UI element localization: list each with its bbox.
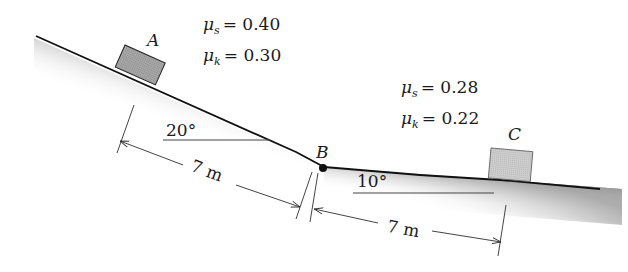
svg-text:μk= 0.22: μk= 0.22	[401, 108, 479, 131]
dimension-ab-label: 7 m	[188, 156, 225, 186]
incline-diagram: A C B μs= 0.40 μk= 0.30 μs= 0.28 μk= 0.2…	[0, 0, 628, 272]
svg-text:μs= 0.28: μs= 0.28	[401, 77, 478, 100]
friction-coefficients-ab: μs= 0.40 μk= 0.30	[203, 14, 281, 68]
block-c-label: C	[508, 124, 521, 144]
block-a-label: A	[145, 30, 159, 50]
mu-k-symbol: μ	[401, 108, 412, 128]
mu-s-symbol: μ	[401, 77, 412, 97]
mu-s-symbol: μ	[203, 14, 214, 34]
point-b-label: B	[315, 142, 329, 162]
dimension-bc-label: 7 m	[386, 216, 421, 241]
mu-k-sub: k	[412, 118, 419, 131]
mu-k-symbol: μ	[203, 45, 214, 65]
angle-20-label: 20°	[166, 120, 196, 140]
diagram-svg: A C B μs= 0.40 μk= 0.30 μs= 0.28 μk= 0.2…	[0, 0, 628, 272]
mu-k-value: = 0.22	[422, 108, 480, 128]
mu-s-sub: s	[214, 24, 220, 37]
svg-text:μs= 0.40: μs= 0.40	[203, 14, 280, 37]
friction-coefficients-bc: μs= 0.28 μk= 0.22	[401, 77, 479, 131]
mu-k-value: = 0.30	[224, 45, 282, 65]
block-c	[488, 148, 532, 182]
point-b	[319, 164, 327, 172]
mu-k-sub: k	[214, 55, 221, 68]
mu-s-sub: s	[412, 87, 418, 100]
mu-s-value: = 0.40	[223, 14, 281, 34]
svg-text:μk= 0.30: μk= 0.30	[203, 45, 281, 68]
mu-s-value: = 0.28	[421, 77, 479, 97]
angle-10-label: 10°	[357, 171, 387, 191]
